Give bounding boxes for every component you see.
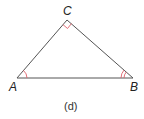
triangle-diagram: C A B (d) [0,0,144,119]
angle-c-right-angle-icon [63,24,72,29]
vertex-label-b: B [130,80,138,94]
angle-b-arc-inner-icon [124,72,126,78]
vertex-label-a: A [8,80,17,94]
angle-a-arc-icon [24,71,28,79]
vertex-label-c: C [63,4,72,18]
angle-b-arc-outer-icon [121,70,124,78]
triangle-abc [17,20,133,78]
figure-caption: (d) [64,100,77,112]
side-bc [67,20,133,78]
side-ac [17,20,67,78]
